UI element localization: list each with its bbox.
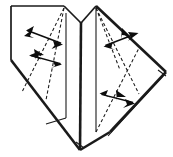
paper-faces	[11, 6, 166, 150]
right-flap-face	[96, 6, 166, 132]
right-front-face	[80, 6, 96, 150]
origami-diagram	[0, 0, 173, 157]
origami-figure-svg	[0, 0, 173, 157]
center-paper-face	[64, 6, 81, 150]
center-spine-line	[80, 22, 81, 150]
